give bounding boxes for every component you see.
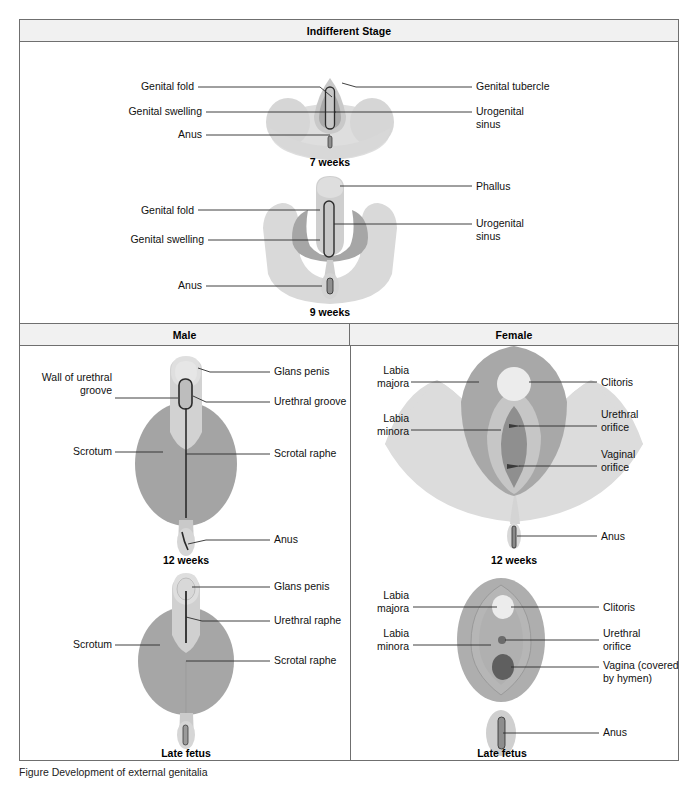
label-scrotum: Scrotum <box>34 638 112 651</box>
label-genital-swelling: Genital swelling <box>70 233 204 246</box>
label-urethral-orifice: Urethral orifice <box>603 627 683 652</box>
label-labia-minora: Labia minora <box>351 627 409 652</box>
label-genital-fold: Genital fold <box>70 80 194 93</box>
stage-caption-seven-weeks: 7 weeks <box>298 156 362 168</box>
label-clitoris: Clitoris <box>603 601 683 614</box>
figure-frame: Indifferent Stage Genital fold Genital <box>19 19 679 761</box>
stage-caption-female-late-fetus: Late fetus <box>468 747 536 759</box>
label-phallus: Phallus <box>476 180 596 193</box>
label-anus: Anus <box>601 530 661 543</box>
label-genital-fold: Genital fold <box>70 204 194 217</box>
header-male: Male <box>20 324 350 346</box>
panel-female-late-fetus: Labia majora Labia minora Clitoris Ureth… <box>351 565 678 760</box>
label-labia-majora: Labia majora <box>351 589 409 614</box>
panel-nine-weeks: Genital fold Genital swelling Anus Phall… <box>20 170 678 323</box>
header-female-label: Female <box>496 329 533 341</box>
label-labia-majora: Labia majora <box>351 364 409 389</box>
label-labia-minora: Labia minora <box>351 412 409 437</box>
label-genital-swelling: Genital swelling <box>70 105 202 118</box>
label-wall-of-urethral-groove: Wall of urethral groove <box>34 371 112 396</box>
label-vagina-covered-by-hymen: Vagina (covered by hymen) <box>603 659 687 684</box>
figure-caption: Figure Development of external genitalia <box>19 766 679 780</box>
label-anus: Anus <box>603 726 663 739</box>
header-male-label: Male <box>173 329 197 341</box>
header-female: Female <box>350 324 678 346</box>
label-anus: Anus <box>70 128 202 141</box>
label-urethral-orifice: Urethral orifice <box>601 408 681 433</box>
header-indifferent-stage-label: Indifferent Stage <box>307 25 392 37</box>
stage-caption-male-late-fetus: Late fetus <box>152 747 220 759</box>
nine-weeks-drawing <box>20 170 678 323</box>
label-urogenital-sinus: Urogenital sinus <box>476 217 596 242</box>
label-genital-tubercle: Genital tubercle <box>476 80 636 93</box>
label-vaginal-orifice: Vaginal orifice <box>601 448 681 473</box>
header-indifferent-stage: Indifferent Stage <box>20 20 678 42</box>
label-clitoris: Clitoris <box>601 376 681 389</box>
label-urogenital-sinus: Urogenital sinus <box>476 105 596 130</box>
panel-male-twelve-weeks: Wall of urethral groove Scrotum Glans pe… <box>20 346 350 561</box>
stage-caption-nine-weeks: 9 weeks <box>298 306 362 318</box>
label-scrotum: Scrotum <box>34 445 112 458</box>
panel-male-late-fetus: Scrotum Glans penis Urethral raphe Scrot… <box>20 565 350 760</box>
label-anus: Anus <box>70 279 202 292</box>
panel-seven-weeks: Genital fold Genital swelling Anus Genit… <box>20 42 678 172</box>
label-anus: Anus <box>274 533 334 546</box>
panel-female-twelve-weeks: Labia majora Labia minora Clitoris Ureth… <box>351 346 678 561</box>
